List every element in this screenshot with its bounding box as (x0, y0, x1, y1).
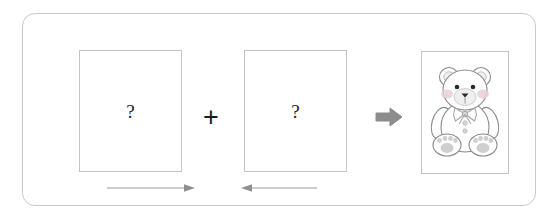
button-top (463, 121, 467, 125)
right-to-left-arrow (241, 181, 317, 195)
plus-operator: + (193, 99, 229, 135)
button-bottom (463, 129, 467, 133)
left-to-right-arrow (107, 181, 195, 195)
illustration-canvas: ? + ? (0, 0, 559, 220)
second-card-question-mark: ? (245, 102, 346, 121)
right-eye (471, 85, 476, 90)
left-eye (455, 85, 460, 90)
second-unknown-card[interactable]: ? (244, 50, 347, 172)
outer-panel: ? + ? (22, 13, 536, 206)
first-card-question-mark: ? (80, 102, 181, 121)
right-block-arrow-icon (375, 106, 403, 128)
teddy-bear-icon (422, 52, 508, 173)
first-unknown-card[interactable]: ? (79, 50, 182, 172)
right-blush (477, 89, 489, 98)
left-blush (441, 89, 453, 98)
teddy-bear-frame[interactable] (421, 51, 509, 174)
